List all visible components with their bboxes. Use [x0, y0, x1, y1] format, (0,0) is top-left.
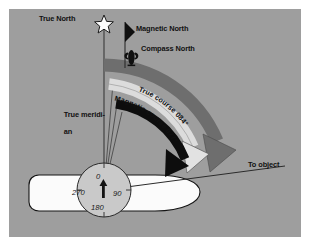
label-compass-north: Compass North: [141, 45, 195, 54]
label-true-meridian-line1: True meridi-: [64, 110, 105, 119]
label-true-meridian: True meridi- an: [56, 102, 105, 145]
compass-tick-label-90: 90: [113, 189, 121, 198]
figure-canvas: True course 084° Magnetic course 077°: [0, 0, 309, 245]
label-to-object: To object: [248, 161, 279, 170]
compass-tick-label-0: 0: [96, 172, 100, 181]
diagram-graphics: True course 084° Magnetic course 077°: [0, 0, 309, 245]
label-true-meridian-line2: an: [64, 127, 72, 136]
label-magnetic-north: Magnetic North: [136, 25, 188, 34]
label-true-north: True North: [39, 15, 75, 24]
compass-tick-label-270: 270: [72, 188, 85, 197]
compass-tick-label-180: 180: [91, 203, 104, 212]
pennant-flag-icon: [125, 22, 135, 42]
